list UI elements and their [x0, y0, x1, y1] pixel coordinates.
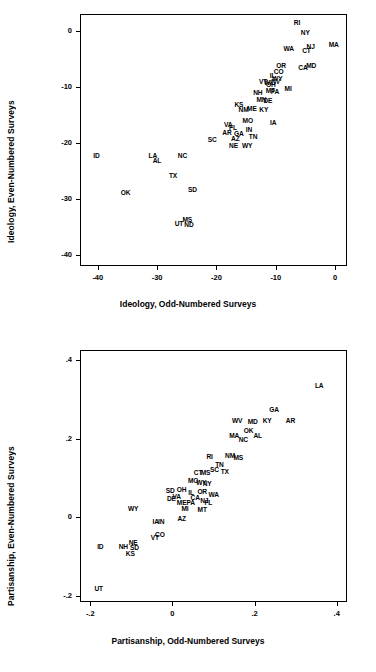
data-point-label: NM [239, 106, 249, 113]
y-tick-mark [76, 596, 80, 597]
x-tick-mark [216, 266, 217, 270]
x-tick-label: 0 [157, 609, 187, 618]
data-point-label: WI [264, 80, 272, 87]
data-point-label: RI [294, 20, 300, 27]
x-tick-mark [255, 602, 256, 606]
y-tick-mark [76, 517, 80, 518]
partisanship-x-axis-label: Partisanship, Odd-Numbered Surveys [0, 636, 376, 646]
data-point-label: MA [329, 41, 339, 48]
x-tick-mark [335, 266, 336, 270]
y-tick-label: -30 [44, 194, 72, 203]
data-point-label: NY [203, 480, 212, 487]
y-tick-label: .4 [44, 355, 72, 364]
data-point-label: SD [188, 186, 197, 193]
data-point-label: WA [283, 45, 293, 52]
x-tick-label: -20 [201, 273, 231, 282]
data-point-label: OK [121, 190, 131, 197]
data-point-label: OK [244, 427, 254, 434]
data-point-label: NE [229, 143, 238, 150]
y-tick-label: 0 [44, 512, 72, 521]
data-point-label: AZ [177, 516, 186, 523]
data-point-label: SC [210, 467, 219, 474]
data-point-label: WY [128, 505, 138, 512]
x-tick-label: -30 [142, 273, 172, 282]
data-point-label: ID [97, 543, 103, 550]
data-point-label: KY [263, 417, 272, 424]
x-tick-mark [276, 266, 277, 270]
x-tick-label: -40 [83, 273, 113, 282]
y-tick-label: -.2 [44, 591, 72, 600]
ideology-x-axis-label: Ideology, Odd-Numbered Surveys [0, 299, 376, 309]
data-point-label: PA [271, 89, 279, 96]
data-point-label: KS [126, 550, 135, 557]
data-point-label: ND [184, 222, 193, 229]
partisanship-scatter-panel: Partisanship, Even-Numbered Surveys LAGA… [0, 336, 376, 672]
y-tick-mark [76, 31, 80, 32]
x-tick-mark [157, 266, 158, 270]
data-point-label: MS [234, 455, 244, 462]
data-point-label: MO [243, 118, 253, 125]
data-point-label: WV [232, 417, 242, 424]
data-point-label: GA [269, 407, 279, 414]
ideology-plot-area: RIMANYWANJCTMDCAORCOILWYNVVTOHWIMIMTPANH… [80, 14, 347, 266]
data-point-label: TX [221, 469, 229, 476]
x-tick-label: .4 [322, 609, 352, 618]
data-point-label: SC [208, 137, 217, 144]
data-point-label: IN [158, 519, 164, 526]
data-point-label: AL [253, 432, 262, 439]
data-point-label: IA [270, 119, 276, 126]
x-tick-mark [98, 266, 99, 270]
partisanship-y-axis-label: Partisanship, Even-Numbered Surveys [6, 356, 16, 606]
ideology-y-axis-label: Ideology, Even-Numbered Surveys [6, 28, 16, 243]
y-tick-label: -20 [44, 138, 72, 147]
x-tick-label: -10 [261, 273, 291, 282]
data-point-label: NY [301, 30, 310, 37]
x-tick-label: -.2 [75, 609, 105, 618]
data-point-label: UT [94, 586, 103, 593]
data-point-label: DE [263, 98, 272, 105]
data-point-label: DE [167, 496, 176, 503]
x-tick-mark [90, 602, 91, 606]
data-point-label: LA [315, 383, 324, 390]
x-tick-label: .2 [240, 609, 270, 618]
data-point-label: KY [259, 107, 268, 114]
y-tick-mark [76, 87, 80, 88]
data-point-label: NC [178, 153, 187, 160]
data-point-label: ID [93, 152, 99, 159]
x-tick-label: 0 [320, 273, 350, 282]
data-point-label: AL [153, 157, 162, 164]
y-tick-label: .2 [44, 434, 72, 443]
data-point-label: TN [249, 134, 258, 141]
data-point-label: MT [198, 506, 207, 513]
y-tick-mark [76, 143, 80, 144]
data-point-label: MI [181, 505, 188, 512]
data-point-label: WY [242, 143, 252, 150]
y-tick-mark [76, 199, 80, 200]
partisanship-plot-area: LAGAARKYMDWVOKALMANCNMMSRITNSCTXMSCTMOWY… [80, 350, 347, 602]
data-point-label: AR [286, 417, 295, 424]
data-point-label: VT [151, 535, 159, 542]
ideology-scatter-panel: Ideology, Even-Numbered Surveys RIMANYWA… [0, 0, 376, 336]
data-point-label: CT [194, 470, 203, 477]
data-point-label: WA [209, 491, 219, 498]
data-point-label: NC [239, 436, 248, 443]
data-point-label: CA [298, 64, 307, 71]
y-tick-label: -40 [44, 250, 72, 259]
y-tick-label: -10 [44, 82, 72, 91]
data-point-label: CT [302, 48, 311, 55]
x-tick-mark [172, 602, 173, 606]
data-point-label: MD [248, 419, 258, 426]
data-point-label: TX [169, 173, 177, 180]
y-tick-mark [76, 360, 80, 361]
y-tick-label: 0 [44, 26, 72, 35]
y-tick-mark [76, 255, 80, 256]
x-tick-mark [337, 602, 338, 606]
y-tick-mark [76, 439, 80, 440]
data-point-label: RI [206, 453, 212, 460]
data-point-label: MD [306, 63, 316, 70]
data-point-label: MI [285, 86, 292, 93]
